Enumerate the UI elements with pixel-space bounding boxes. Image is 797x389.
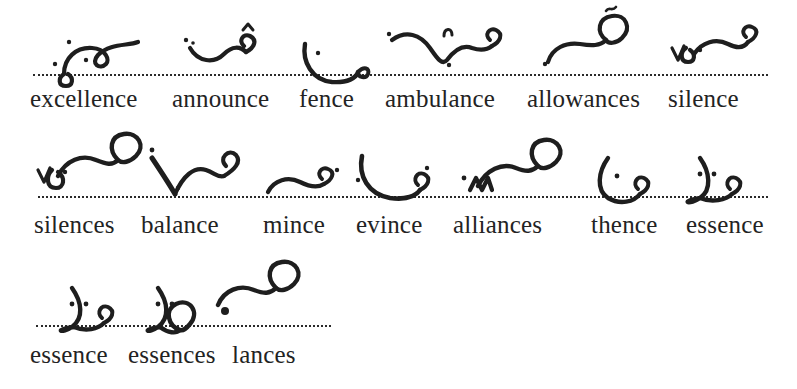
word-label-excellence: excellence: [30, 86, 137, 111]
word-label-balance: balance: [141, 212, 219, 237]
word-label-essences: essences: [128, 342, 216, 367]
word-label-allowances: allowances: [527, 86, 640, 111]
word-label-lances: lances: [232, 342, 296, 367]
word-label-announce: announce: [172, 86, 269, 111]
shorthand-row-3: [0, 245, 797, 389]
word-label-alliances: alliances: [453, 212, 542, 237]
word-label-ambulance: ambulance: [385, 86, 495, 111]
word-label-silences: silences: [34, 212, 115, 237]
word-label-essence-row3: essence: [30, 342, 108, 367]
writing-baseline-row-2: [38, 196, 768, 198]
writing-baseline-row-1: [33, 74, 768, 76]
word-label-thence: thence: [591, 212, 657, 237]
word-label-evince: evince: [356, 212, 422, 237]
writing-baseline-row-3: [36, 325, 331, 327]
word-label-fence: fence: [299, 86, 354, 111]
shorthand-plate: excellence announce fence ambulance allo…: [0, 0, 797, 389]
word-label-mince: mince: [263, 212, 325, 237]
word-label-silence: silence: [668, 86, 739, 111]
word-label-essence-row2: essence: [686, 212, 764, 237]
